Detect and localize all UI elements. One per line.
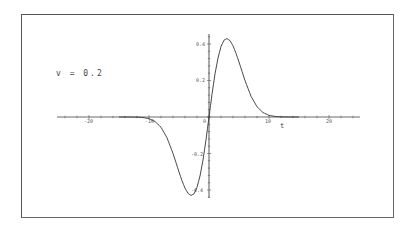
y-tick-label-m0.2: -0.2: [191, 151, 203, 157]
y-tick-label-0.4: 0.4: [196, 41, 205, 47]
x-tick-label-10: 10: [265, 118, 271, 124]
x-tick-label-20: 20: [326, 118, 332, 124]
annotation-v: v = 0.2: [56, 69, 104, 78]
x-axis-label: t: [280, 122, 284, 130]
x-tick-label-m20: -20: [84, 118, 93, 124]
x-tick-label-0: 0: [203, 118, 206, 124]
y-tick-label-0.2: 0.2: [196, 77, 205, 83]
line-chart: -20 -10 0 10 20 0.4 0.2 -0.2 -0.4 t v = …: [0, 0, 417, 233]
